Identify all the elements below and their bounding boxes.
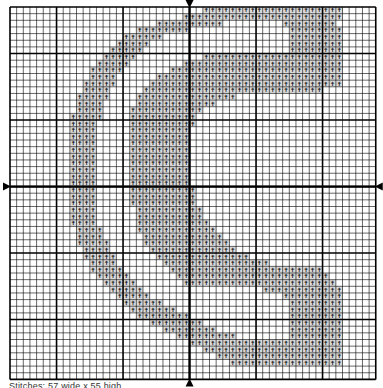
- stitch-symbol: ✝: [317, 86, 322, 93]
- stitch-symbol: ✝: [224, 13, 229, 20]
- stitch-symbol: ✝: [204, 346, 209, 353]
- stitch-symbol: ✝: [224, 352, 229, 359]
- stitch-symbol: ✝: [190, 339, 195, 346]
- stitch-symbol: ✝: [170, 266, 175, 273]
- stitch-symbol: ✝: [264, 86, 269, 93]
- stitch-symbol: ✝: [217, 279, 222, 286]
- stitch-symbol: ✝: [270, 286, 275, 293]
- stitch-symbol: ✝: [277, 86, 282, 93]
- stitch-symbol: ✝: [257, 86, 262, 93]
- stitch-symbol: ✝: [190, 279, 195, 286]
- stitch-symbol: ✝: [164, 26, 169, 33]
- stitch-symbol: ✝: [244, 279, 249, 286]
- stitch-symbol: ✝: [317, 359, 322, 366]
- stitch-symbol: ✝: [144, 312, 149, 319]
- stitch-symbol: ✝: [144, 239, 149, 246]
- stitch-symbol: ✝: [283, 86, 288, 93]
- stitch-symbol: ✝: [204, 100, 209, 107]
- stitch-symbol: ✝: [297, 359, 302, 366]
- stitch-symbol: ✝: [250, 359, 255, 366]
- stitch-symbol: ✝: [170, 326, 175, 333]
- stitch-symbol: ✝: [131, 199, 136, 206]
- stitch-symbol: ✝: [224, 279, 229, 286]
- stitch-symbol: ✝: [137, 226, 142, 233]
- stitch-symbol: ✝: [257, 279, 262, 286]
- stitch-symbol: ✝: [164, 259, 169, 266]
- stitch-symbol: ✝: [184, 332, 189, 339]
- stitch-symbol: ✝: [97, 272, 102, 279]
- stitch-symbol: ✝: [277, 13, 282, 20]
- stitch-symbol: ✝: [117, 292, 122, 299]
- stitch-symbol: ✝: [124, 60, 129, 67]
- stitch-symbol: ✝: [197, 106, 202, 113]
- stitch-symbol: ✝: [91, 266, 96, 273]
- stitch-symbol: ✝: [77, 239, 82, 246]
- stitch-symbol: ✝: [337, 80, 342, 87]
- stitch-symbol: ✝: [210, 279, 215, 286]
- stitch-symbol: ✝: [197, 20, 202, 27]
- stitch-symbol: ✝: [323, 80, 328, 87]
- stitch-symbol: ✝: [217, 352, 222, 359]
- stitch-symbol: ✝: [244, 13, 249, 20]
- stitch-symbol: ✝: [283, 292, 288, 299]
- stitch-symbol: ✝: [303, 86, 308, 93]
- stitch-symbol: ✝: [197, 279, 202, 286]
- stitch-symbol: ✝: [230, 279, 235, 286]
- stitch-symbol: ✝: [230, 359, 235, 366]
- stitch-symbol: ✝: [217, 93, 222, 100]
- stitch-symbol: ✝: [297, 86, 302, 93]
- stitch-symbol: ✝: [177, 26, 182, 33]
- stitch-symbol: ✝: [337, 13, 342, 20]
- stitch-symbol: ✝: [277, 359, 282, 366]
- stitch-symbol: ✝: [257, 13, 262, 20]
- cross-stitch-chart: ✝✝✝✝✝✝✝✝✝✝✝✝✝✝✝✝✝✝✝✝✝✝✝✝✝✝✝✝✝✝✝✝✝✝✝✝✝✝✝✝…: [0, 0, 383, 388]
- stitch-symbol: ✝: [177, 332, 182, 339]
- stitch-symbol: ✝: [237, 359, 242, 366]
- stitch-symbol: ✝: [177, 272, 182, 279]
- stitch-symbol: ✝: [237, 86, 242, 93]
- stitch-symbol: ✝: [184, 26, 189, 33]
- stitch-symbol: ✝: [230, 13, 235, 20]
- stitch-symbol: ✝: [217, 20, 222, 27]
- stitch-symbol: ✝: [250, 86, 255, 93]
- stitch-symbol: ✝: [230, 93, 235, 100]
- stitch-symbol: ✝: [264, 359, 269, 366]
- stitch-symbol: ✝: [264, 286, 269, 293]
- stitch-symbol: ✝: [104, 93, 109, 100]
- stitch-symbol: ✝: [131, 306, 136, 313]
- stitch-symbol: ✝: [323, 359, 328, 366]
- stitch-symbol: ✝: [117, 66, 122, 73]
- stitch-symbol: ✝: [157, 33, 162, 40]
- stitch-symbol: ✝: [270, 13, 275, 20]
- stitch-symbol: ✝: [290, 86, 295, 93]
- stitch-symbol: ✝: [270, 359, 275, 366]
- stitch-symbol: ✝: [190, 20, 195, 27]
- stitch-symbol: ✝: [270, 86, 275, 93]
- stitch-symbol: ✝: [97, 113, 102, 120]
- stitch-symbol: ✝: [150, 33, 155, 40]
- stitch-symbol: ✝: [204, 279, 209, 286]
- stitch-symbol: ✝: [137, 312, 142, 319]
- stitch-symbol: ✝: [104, 279, 109, 286]
- stitch-symbol: ✝: [330, 359, 335, 366]
- stitch-symbol: ✝: [337, 359, 342, 366]
- stitch-symbol: ✝: [150, 246, 155, 253]
- stitch-symbol: ✝: [250, 13, 255, 20]
- stitch-symbol: ✝: [290, 359, 295, 366]
- stitch-count-caption: Stitches: 57 wide x 55 high: [9, 381, 121, 388]
- stitch-symbol: ✝: [330, 80, 335, 87]
- stitch-symbol: ✝: [124, 299, 129, 306]
- stitch-symbol: ✝: [137, 46, 142, 53]
- stitch-symbol: ✝: [71, 219, 76, 226]
- stitch-symbol: ✝: [283, 359, 288, 366]
- stitch-symbol: ✝: [237, 279, 242, 286]
- stitch-symbol: ✝: [244, 359, 249, 366]
- stitch-symbol: ✝: [310, 359, 315, 366]
- stitch-symbol: ✝: [170, 26, 175, 33]
- stitch-symbol: ✝: [184, 279, 189, 286]
- stitch-symbol: ✝: [144, 40, 149, 47]
- stitch-symbol: ✝: [283, 20, 288, 27]
- stitch-symbol: ✝: [197, 339, 202, 346]
- stitch-symbol: ✝: [210, 20, 215, 27]
- stitch-symbol: ✝: [250, 279, 255, 286]
